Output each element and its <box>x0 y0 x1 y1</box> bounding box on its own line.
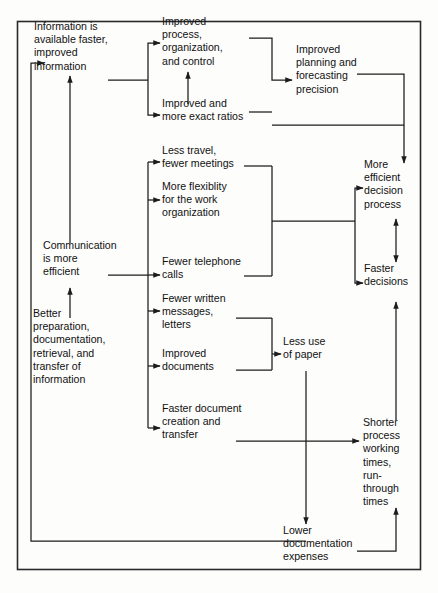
node-line: creation and <box>162 415 220 427</box>
node-line: Better <box>33 307 62 319</box>
node-line: is more <box>43 252 78 264</box>
node-line: Fewer written <box>162 292 226 304</box>
node-line: run- <box>363 469 382 481</box>
node-line: transfer <box>162 428 198 440</box>
edge-process-merge-to-planning <box>249 38 292 80</box>
diagram-canvas: Information isavailable faster,improvedi… <box>0 0 438 593</box>
node-line: times, <box>363 456 391 468</box>
node-line: Less travel, <box>162 144 216 156</box>
node-line: organization <box>162 206 220 218</box>
node-better-preparation: Betterpreparation,documentation,retrieva… <box>33 307 105 385</box>
node-communication-efficient: Communicationis moreefficient <box>43 239 117 277</box>
edge-split-to-improved-ratios <box>148 80 160 115</box>
node-line: and control <box>162 55 214 67</box>
node-line: calls <box>162 268 183 280</box>
node-line: More flexiblity <box>162 180 227 192</box>
flowchart-svg: Information isavailable faster,improvedi… <box>0 0 438 593</box>
node-fewer-telephone: Fewer telephonecalls <box>162 255 241 280</box>
edge-split-to-improved-process <box>148 43 160 80</box>
node-line: Improved <box>296 43 340 55</box>
node-line: organization, <box>162 41 223 53</box>
node-line: process, <box>162 28 202 40</box>
node-line: process <box>364 198 401 210</box>
node-line: documents <box>162 360 214 372</box>
node-line: decisions <box>364 275 408 287</box>
node-line: planning and <box>296 56 357 68</box>
node-line: More <box>364 158 388 170</box>
node-improved-process: Improvedprocess,organization,and control <box>162 15 223 67</box>
node-less-paper: Less useof paper <box>283 335 326 360</box>
node-line: information <box>33 373 86 385</box>
node-line: efficient <box>364 171 400 183</box>
node-layer: Information isavailable faster,improvedi… <box>33 15 408 562</box>
node-faster-decisions: Fasterdecisions <box>364 262 408 287</box>
node-improved-ratios: Improved andmore exact ratios <box>162 97 243 122</box>
node-line: Fewer telephone <box>162 255 241 267</box>
node-more-efficient-decision: Moreefficientdecisionprocess <box>364 158 403 210</box>
node-line: Improved and <box>162 97 227 109</box>
node-fewer-written: Fewer writtenmessages,letters <box>162 292 226 330</box>
node-line: documentation, <box>33 333 105 345</box>
node-line: fewer meetings <box>162 157 234 169</box>
edge-planning-to-decision <box>357 74 404 163</box>
node-line: available faster, <box>34 33 108 45</box>
node-line: information <box>34 60 87 72</box>
edge-decision-split-to-faster <box>355 221 363 283</box>
node-improved-planning: Improvedplanning andforecastingprecision <box>296 43 357 95</box>
node-line: letters <box>162 318 191 330</box>
node-line: Communication <box>43 239 117 251</box>
node-line: decision <box>364 184 403 196</box>
node-line: Less use <box>283 335 326 347</box>
node-line: through <box>363 482 399 494</box>
node-line: times <box>363 495 388 507</box>
node-line: Improved <box>162 15 206 27</box>
node-line: improved <box>34 46 78 58</box>
node-line: Faster document <box>162 402 242 414</box>
node-line: efficient <box>43 265 79 277</box>
node-lower-documentation: Lowerdocumentationexpenses <box>283 524 353 562</box>
node-shorter-process: Shorterprocessworkingtimes,run-throughti… <box>362 416 400 507</box>
node-line: forecasting <box>296 69 348 81</box>
node-line: process <box>363 429 400 441</box>
node-line: transfer of <box>33 360 81 372</box>
edge-lower-documentation-to-shorter <box>357 508 396 551</box>
node-line: for the work <box>162 193 218 205</box>
node-line: Improved <box>162 347 206 359</box>
node-line: documentation <box>283 537 353 549</box>
node-line: expenses <box>283 550 328 562</box>
node-line: working <box>362 442 400 454</box>
node-line: Lower <box>283 524 312 536</box>
node-line: retrieval, and <box>33 347 94 359</box>
node-line: Faster <box>364 262 394 274</box>
node-line: preparation, <box>33 320 90 332</box>
node-faster-document: Faster documentcreation andtransfer <box>162 402 242 440</box>
node-less-travel: Less travel,fewer meetings <box>162 144 234 169</box>
node-line: of paper <box>283 348 322 360</box>
node-information-available: Information isavailable faster,improvedi… <box>34 20 108 72</box>
node-more-flexibility: More flexiblityfor the workorganization <box>162 180 227 218</box>
node-line: messages, <box>162 305 213 317</box>
node-line: Information is <box>34 20 98 32</box>
edge-decision-split-to-efficient <box>355 188 363 221</box>
node-line: more exact ratios <box>162 110 243 122</box>
node-improved-documents: Improveddocuments <box>162 347 214 372</box>
node-line: precision <box>296 83 339 95</box>
node-line: Shorter <box>363 416 398 428</box>
